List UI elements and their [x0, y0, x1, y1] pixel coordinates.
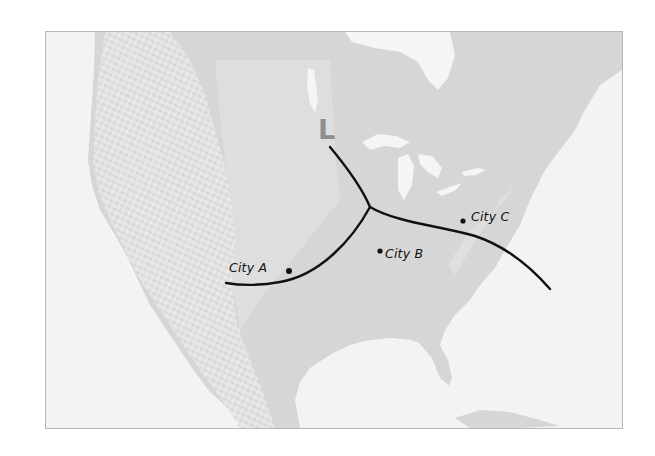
fronts-layer — [0, 0, 655, 456]
city-b-dot — [377, 248, 382, 253]
city-c-label: City C — [471, 211, 509, 224]
low-pressure-label: L — [318, 116, 335, 143]
city-c-dot — [460, 218, 465, 223]
city-a-label: City A — [229, 262, 267, 275]
city-a-dot — [286, 268, 292, 274]
front-line-north — [330, 147, 370, 207]
city-b-label: City B — [385, 248, 423, 261]
